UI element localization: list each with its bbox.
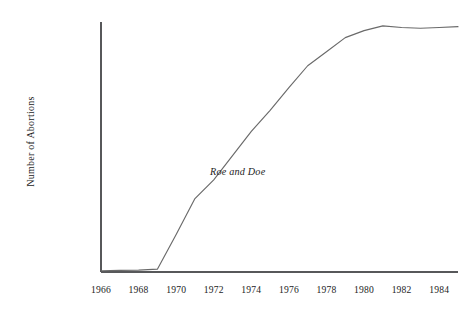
x-tick-label: 1982: [392, 284, 412, 295]
y-axis-title: Number of Abortions: [25, 67, 36, 217]
x-tick-label: 1984: [429, 284, 449, 295]
x-tick-label: 1976: [279, 284, 299, 295]
annotation-roe-and-doe: Roe and Doe: [210, 166, 265, 177]
x-tick-label: 1974: [241, 284, 261, 295]
x-axis-tick-labels: 1966196819701972197419761978198019821984: [0, 0, 466, 318]
x-tick-label: 1968: [129, 284, 149, 295]
x-tick-label: 1978: [316, 284, 336, 295]
x-tick-label: 1970: [166, 284, 186, 295]
abortions-line-chart: 0200,000400,000600,000800,0001,000,0001,…: [0, 0, 466, 318]
x-tick-label: 1966: [91, 284, 111, 295]
x-tick-label: 1980: [354, 284, 374, 295]
x-tick-label: 1972: [204, 284, 224, 295]
